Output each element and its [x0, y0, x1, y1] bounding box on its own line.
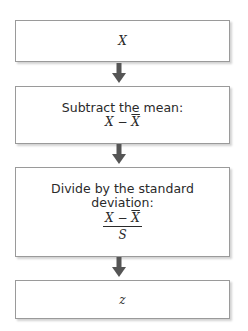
- expression-z: z: [119, 293, 125, 307]
- arrow-down-icon: [112, 257, 126, 277]
- step-label-divide-line1: Divide by the standard: [51, 182, 194, 196]
- arrow-down-icon: [112, 63, 126, 83]
- step-label-subtract-mean: Subtract the mean:: [62, 101, 183, 115]
- expression-deviation: X − X: [105, 115, 140, 129]
- step-box-divide-sd: Divide by the standard deviation: X − X …: [15, 167, 230, 257]
- x-bar: X: [131, 115, 140, 129]
- step-box-subtract-mean: Subtract the mean: X − X: [15, 86, 230, 144]
- step-label-divide-line2: deviation:: [91, 196, 153, 210]
- step-box-z: z: [15, 280, 230, 319]
- expression-x: X: [118, 34, 127, 48]
- fraction-z-formula: X − X S: [103, 211, 142, 242]
- arrow-down-icon: [112, 144, 126, 164]
- fraction-numerator: X − X: [103, 211, 142, 227]
- fraction-denominator: S: [118, 227, 126, 242]
- step-box-x: X: [15, 20, 230, 62]
